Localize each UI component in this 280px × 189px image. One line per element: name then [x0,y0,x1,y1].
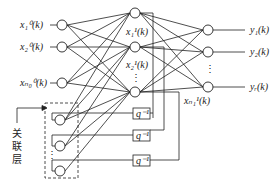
output-node-2 [203,47,213,57]
input-node-n [57,78,67,88]
hidden-label-n: xₙ₁¹(k) [184,96,210,106]
context-layer-label-2: 联 [11,141,23,153]
input-label-1: x₁⁰(k) [20,20,43,30]
delay-label-2: q⁻¹ [136,131,149,141]
hidden-node-1 [130,8,140,18]
output-label-2: y₂(k) [250,47,269,57]
hidden-node-n [130,87,140,97]
output-label-r: yᵣ(k) [250,82,268,92]
output-ellipsis: ⋮ [205,64,215,74]
hidden-ellipsis: ⋮ [131,73,141,83]
context-node-n [55,166,65,176]
input-node-1 [57,20,67,30]
input-node-2 [57,42,67,52]
elman-network-diagram: x₁⁰(k) x₂⁰(k) xₙ₀⁰(k) x₁¹(k) x₂¹(k) ⋮ xₙ… [0,0,280,189]
output-label-1: y₁(k) [250,25,269,35]
output-node-1 [203,25,213,35]
hidden-node-2 [130,42,140,52]
hidden-label-2: x₂¹(k) [126,60,148,70]
delay-label-3: q⁻¹ [136,156,149,166]
context-layer-label-3: 层 [11,154,23,166]
output-node-r [203,82,213,92]
context-ellipsis: ⋮ [47,150,57,160]
context-layer-label-1: 关 [11,128,23,140]
delay-label-1: q⁻¹ [136,109,149,119]
context-node-1 [55,115,65,125]
input-label-n: xₙ₀⁰(k) [20,78,47,88]
hidden-label-1: x₁¹(k) [126,27,148,37]
input-label-2: x₂⁰(k) [20,42,43,52]
